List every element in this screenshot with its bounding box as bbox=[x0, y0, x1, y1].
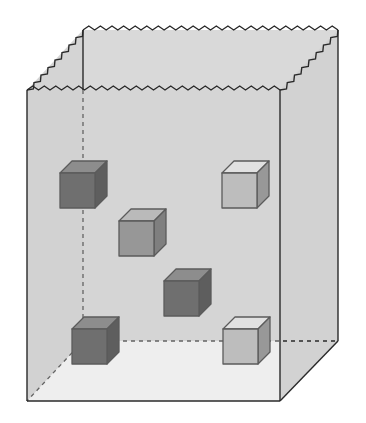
box-right-side bbox=[280, 30, 338, 401]
box-diagram bbox=[0, 0, 366, 423]
diagram-container bbox=[0, 0, 366, 423]
box-front bbox=[27, 90, 280, 401]
